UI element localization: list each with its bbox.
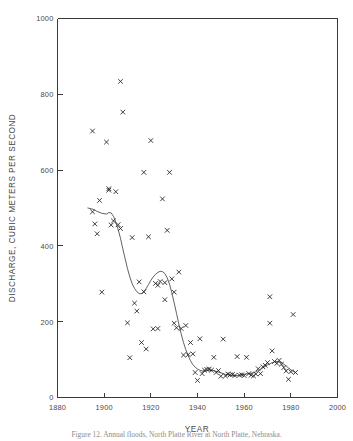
y-axis-title: DISCHARGE, CUBIC METERS PER SECOND <box>8 114 17 303</box>
data-point-marker <box>90 209 95 214</box>
y-axis-tick-label: 600 <box>41 166 54 175</box>
data-point-marker <box>160 197 165 202</box>
data-point-marker <box>144 347 149 352</box>
data-point-marker <box>235 354 240 359</box>
y-axis-tick-label: 200 <box>41 318 54 327</box>
data-point-marker <box>128 355 133 360</box>
data-point-marker <box>177 270 182 275</box>
discharge-vs-year-scatter-chart: 02004006008001000 1880190019201940196019… <box>0 0 353 441</box>
data-point-marker <box>219 374 224 379</box>
data-point-marker <box>130 235 135 240</box>
data-point-marker <box>163 280 168 285</box>
data-point-marker <box>170 277 175 282</box>
data-point-marker <box>188 340 193 345</box>
x-axis-tick-label: 1940 <box>189 403 206 412</box>
data-point-marker <box>100 290 105 295</box>
data-point-marker <box>118 79 123 84</box>
data-point-marker <box>95 231 100 236</box>
data-point-marker <box>268 321 273 326</box>
data-point-marker <box>198 336 203 341</box>
data-point-marker <box>97 198 102 203</box>
data-point-marker <box>291 312 296 317</box>
data-point-marker <box>268 294 273 299</box>
y-axis-tick-label: 0 <box>49 393 53 402</box>
data-point-marker <box>174 325 179 330</box>
x-axis-tick-label: 1980 <box>282 403 299 412</box>
data-point-marker <box>181 353 186 358</box>
y-axis-ticks-group: 02004006008001000 <box>36 14 62 402</box>
figure-container: 02004006008001000 1880190019201940196019… <box>0 0 353 441</box>
x-axis-tick-label: 1960 <box>236 403 253 412</box>
data-point-marker <box>125 321 130 326</box>
data-point-marker <box>191 352 196 357</box>
figure-caption: Figure 12. Annual floods, North Platte R… <box>14 430 339 439</box>
data-point-marker <box>184 323 189 328</box>
x-axis-tick-label: 1880 <box>49 403 66 412</box>
data-points-group <box>90 79 298 383</box>
data-point-marker <box>270 349 275 354</box>
data-point-marker <box>142 170 147 175</box>
y-axis-tick-label: 1000 <box>36 14 53 23</box>
data-point-marker <box>293 370 298 375</box>
data-point-marker <box>193 370 198 375</box>
x-axis-tick-label: 1920 <box>142 403 159 412</box>
data-point-marker <box>156 326 161 331</box>
data-point-marker <box>167 170 172 175</box>
data-point-marker <box>163 297 168 302</box>
smoothed-trend-curve <box>88 208 296 376</box>
data-point-marker <box>132 301 137 306</box>
data-point-marker <box>149 138 154 143</box>
data-point-marker <box>265 360 270 365</box>
data-point-marker <box>121 110 126 115</box>
x-axis-tick-label: 2000 <box>329 403 346 412</box>
x-axis-tick-label: 1900 <box>96 403 113 412</box>
data-point-marker <box>244 355 249 360</box>
data-point-marker <box>221 337 226 342</box>
x-axis-ticks-group: 1880190019201940196019802000 <box>49 393 346 412</box>
data-point-marker <box>109 223 114 228</box>
y-axis-tick-label: 800 <box>41 90 54 99</box>
data-point-marker <box>104 140 109 145</box>
data-point-marker <box>139 340 144 345</box>
data-point-marker <box>90 129 95 134</box>
y-axis-tick-label: 400 <box>41 242 54 251</box>
data-point-marker <box>172 321 177 326</box>
data-point-marker <box>254 372 259 377</box>
data-point-marker <box>172 290 177 295</box>
smoothed-trend-curve-group <box>88 208 296 376</box>
data-point-marker <box>114 189 119 194</box>
data-point-marker <box>135 309 140 314</box>
data-point-marker <box>146 235 151 240</box>
data-point-marker <box>212 355 217 360</box>
data-point-marker <box>286 377 291 382</box>
data-point-marker <box>258 371 263 376</box>
data-point-marker <box>93 222 98 227</box>
data-point-marker <box>165 228 170 233</box>
data-point-marker <box>137 280 142 285</box>
data-point-marker <box>151 327 156 332</box>
data-point-marker <box>195 378 200 383</box>
data-point-marker <box>142 289 147 294</box>
